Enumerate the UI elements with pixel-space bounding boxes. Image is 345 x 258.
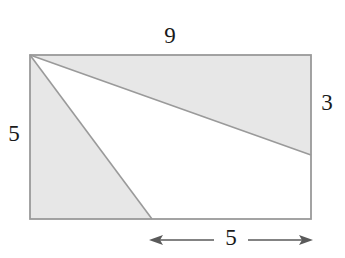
left-length-label: 5 — [8, 121, 20, 146]
bottom-length-label: 5 — [225, 225, 237, 250]
top-length-label: 9 — [164, 23, 176, 48]
right-length-label: 3 — [321, 90, 333, 115]
diagram-canvas: 9 5 3 5 — [0, 0, 345, 258]
geometry-figure: 9 5 3 5 — [0, 0, 345, 258]
